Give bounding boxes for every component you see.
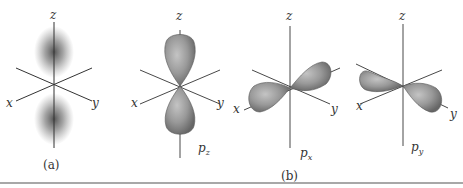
panel-a: z x y (a) [6,8,99,172]
y-axis-label: y [91,96,99,110]
z-axis-label: z [175,9,183,23]
z-axis-label: z [285,9,293,23]
x-axis-label: x [6,96,13,110]
pz-lower-lobe-icon [165,86,195,134]
px-front-lobe-icon [249,82,290,112]
x-axis-label: x [233,102,240,116]
caption-a: (a) [43,158,60,172]
orbital-py: z x y py [356,9,457,156]
caption-b: (b) [281,169,298,183]
x-axis-label: x [356,99,363,113]
orbital-px: z x y px (b) [233,9,340,183]
py-right-lobe-icon [403,83,442,112]
y-axis-label: y [216,96,224,110]
orbital-label-py: py [411,140,424,156]
px-back-lobe-icon [290,62,331,91]
orbital-label-pz: pz [198,141,211,157]
axes-a [16,22,92,148]
y-axis-label: y [330,102,338,116]
p-orbitals-figure: z x y (a) z x y pz z x y px (b) [0,0,463,188]
z-axis-label: z [49,8,57,22]
orbital-label-px: px [300,146,313,162]
bottom-rule [0,182,463,184]
orbital-pz: z x y pz [131,9,224,158]
x-axis-label: x [131,96,138,110]
z-axis-label: z [398,9,406,23]
y-axis-label: y [449,107,457,121]
pz-upper-lobe-icon [165,35,195,87]
